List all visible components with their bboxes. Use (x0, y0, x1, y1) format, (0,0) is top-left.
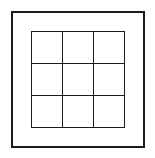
grid-cell-r1-c3 (94, 32, 125, 64)
grid-cell-r1-c2 (63, 32, 94, 64)
grid-cell-r2-c3 (94, 64, 125, 96)
grid-cell-r3-c2 (63, 96, 94, 128)
grid-cell-r1-c1 (32, 32, 63, 64)
grid-3x3 (31, 31, 125, 128)
grid-cell-r3-c1 (32, 96, 63, 128)
grid-cell-r2-c2 (63, 64, 94, 96)
grid-cell-r3-c3 (94, 96, 125, 128)
grid-cell-r2-c1 (32, 64, 63, 96)
